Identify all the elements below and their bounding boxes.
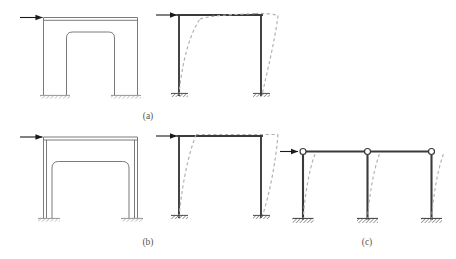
support-fixed-2 xyxy=(357,218,378,223)
pin-hinge-middle xyxy=(365,149,371,155)
panel-caption-c: (c) xyxy=(362,237,373,248)
panel-caption-a: (a) xyxy=(143,111,154,122)
support-fixed-right xyxy=(121,218,143,221)
support-fixed-3 xyxy=(421,218,442,223)
pin-hinge-left xyxy=(300,149,306,155)
panel-caption-b: (b) xyxy=(142,237,153,248)
support-fixed-left xyxy=(38,218,60,221)
support-fixed-right xyxy=(253,215,270,219)
support-fixed-left xyxy=(171,215,188,219)
support-fixed-left xyxy=(40,95,70,98)
support-fixed-right xyxy=(253,93,270,97)
support-fixed-right xyxy=(111,95,141,98)
figure-background xyxy=(0,0,456,259)
support-fixed-1 xyxy=(293,218,314,223)
pin-hinge-right xyxy=(429,149,435,155)
support-fixed-left xyxy=(171,93,188,97)
structural-frames-figure: (a) xyxy=(0,0,456,259)
